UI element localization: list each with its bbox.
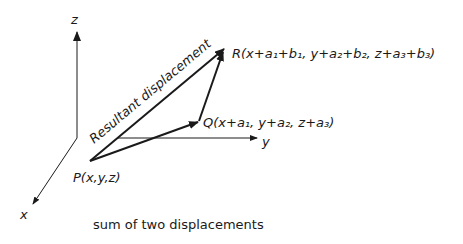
point-p-label: P(x,y,z) bbox=[73, 170, 120, 185]
x-axis-label: x bbox=[19, 207, 28, 222]
displacement-b-vector bbox=[199, 52, 223, 121]
caption: sum of two displacements bbox=[93, 217, 264, 232]
z-axis-label: z bbox=[70, 12, 79, 27]
vector-diagram: z y x P(x,y,z) Q(x+a₁, y+a₂, z+a₃) R(x+a… bbox=[0, 0, 463, 244]
resultant-displacement-label: Resultant displacement bbox=[86, 35, 214, 146]
y-axis-label: y bbox=[261, 134, 270, 149]
point-q-label: Q(x+a₁, y+a₂, z+a₃) bbox=[203, 115, 334, 130]
point-r-label: R(x+a₁+b₁, y+a₂+b₂, z+a₃+b₃) bbox=[232, 46, 435, 61]
x-axis bbox=[33, 138, 77, 204]
